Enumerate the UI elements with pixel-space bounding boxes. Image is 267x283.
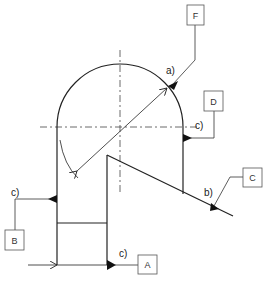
- diagram-svg: F a) D c) C b) B c) A c): [0, 0, 267, 283]
- box-label: C: [249, 173, 256, 183]
- callout-b: B c): [5, 187, 57, 250]
- centerlines: [40, 50, 200, 192]
- weld-annotation: c): [11, 187, 19, 198]
- weld-triangle-icon: [210, 203, 219, 211]
- arc-rotation-arrow: [60, 140, 78, 178]
- radius-dimension: [60, 88, 167, 178]
- box-label: B: [11, 236, 17, 246]
- callout-a: A c): [107, 248, 157, 274]
- callout-d: D c): [183, 91, 223, 142]
- box-label: D: [210, 97, 217, 107]
- weld-annotation: a): [166, 65, 175, 76]
- callout-c: C b): [204, 168, 262, 211]
- weld-annotation: c): [119, 248, 127, 259]
- weld-annotation: c): [195, 120, 203, 131]
- box-label: A: [144, 260, 150, 270]
- leader-line: [15, 199, 50, 230]
- leader-line: [214, 177, 243, 206]
- weld-annotation: b): [204, 187, 213, 198]
- leader-line: [173, 25, 195, 84]
- diameter-arrow: [77, 88, 167, 171]
- box-label: F: [193, 11, 199, 21]
- callout-f: F a): [166, 5, 204, 90]
- weld-diagram: F a) D c) C b) B c) A c): [0, 0, 267, 283]
